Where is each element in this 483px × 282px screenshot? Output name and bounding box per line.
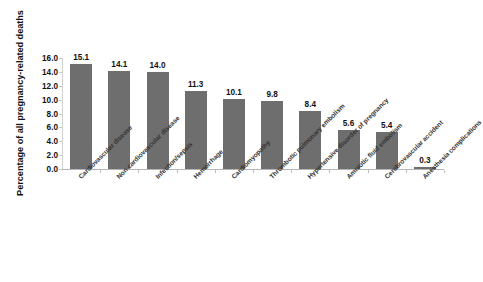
y-tick-mark xyxy=(59,58,62,59)
x-tick-mark xyxy=(100,170,101,173)
x-tick-mark xyxy=(406,170,407,173)
y-axis-line xyxy=(62,58,63,170)
y-tick-label: 14.0 xyxy=(42,67,58,76)
y-tick-label: 12.0 xyxy=(42,81,58,90)
bar-value-label: 0.3 xyxy=(419,156,430,165)
x-tick-mark xyxy=(368,170,369,173)
y-tick-label: 4.0 xyxy=(47,137,58,146)
bar-value-label: 8.4 xyxy=(305,100,316,109)
y-tick-mark xyxy=(59,114,62,115)
x-tick-mark xyxy=(444,170,445,173)
x-tick-mark xyxy=(215,170,216,173)
bar xyxy=(70,64,92,169)
bar xyxy=(261,101,283,169)
x-tick-mark xyxy=(329,170,330,173)
y-tick-label: 8.0 xyxy=(47,109,58,118)
y-tick-mark xyxy=(59,127,62,128)
x-tick-mark xyxy=(138,170,139,173)
y-tick-mark xyxy=(59,169,62,170)
y-tick-label: 6.0 xyxy=(47,123,58,132)
y-tick-mark xyxy=(59,72,62,73)
y-tick-mark xyxy=(59,100,62,101)
bar xyxy=(185,91,207,169)
y-tick-mark xyxy=(59,141,62,142)
y-tick-label: 2.0 xyxy=(47,151,58,160)
bar xyxy=(147,72,169,169)
bar-value-label: 9.8 xyxy=(266,90,277,99)
bar-value-label: 10.1 xyxy=(226,88,242,97)
x-tick-mark xyxy=(291,170,292,173)
y-tick-mark xyxy=(59,155,62,156)
bar-value-label: 14.1 xyxy=(111,60,127,69)
bar xyxy=(108,71,130,169)
bar xyxy=(223,99,245,169)
y-tick-label: 10.0 xyxy=(42,95,58,104)
bar-value-label: 14.0 xyxy=(150,61,166,70)
y-tick-label: 0.0 xyxy=(47,165,58,174)
bar-value-label: 15.1 xyxy=(73,53,89,62)
y-tick-mark xyxy=(59,86,62,87)
y-axis-title: Percentage of all pregnancy-related deat… xyxy=(10,3,30,203)
x-tick-mark xyxy=(253,170,254,173)
bar-value-label: 11.3 xyxy=(188,80,203,89)
y-tick-label: 16.0 xyxy=(42,54,58,63)
x-tick-mark xyxy=(177,170,178,173)
